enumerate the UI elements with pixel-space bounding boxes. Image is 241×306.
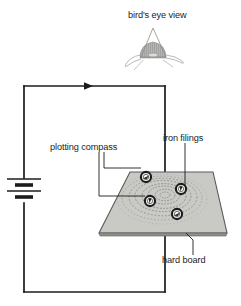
battery-symbol [7,179,41,197]
plotting-compass-3 [145,196,155,206]
diagram-canvas: bird's eye view [0,0,241,306]
plotting-compass-1 [141,172,151,182]
iron-filings-label: iron filings [163,133,204,143]
plotting-compass-label: plotting compass [50,142,118,152]
hard-board-front-edge [99,233,227,236]
plotting-compass-4 [172,209,182,219]
hard-board-label: hard board [162,255,205,265]
hard-board [99,172,227,236]
bird-sketch-icon [125,28,183,70]
leader-plotting-compass-a [104,152,141,168]
physics-diagram-svg: bird's eye view [0,0,241,306]
current-direction-arrow-icon [84,82,93,90]
birds-eye-view-label: bird's eye view [128,10,187,20]
